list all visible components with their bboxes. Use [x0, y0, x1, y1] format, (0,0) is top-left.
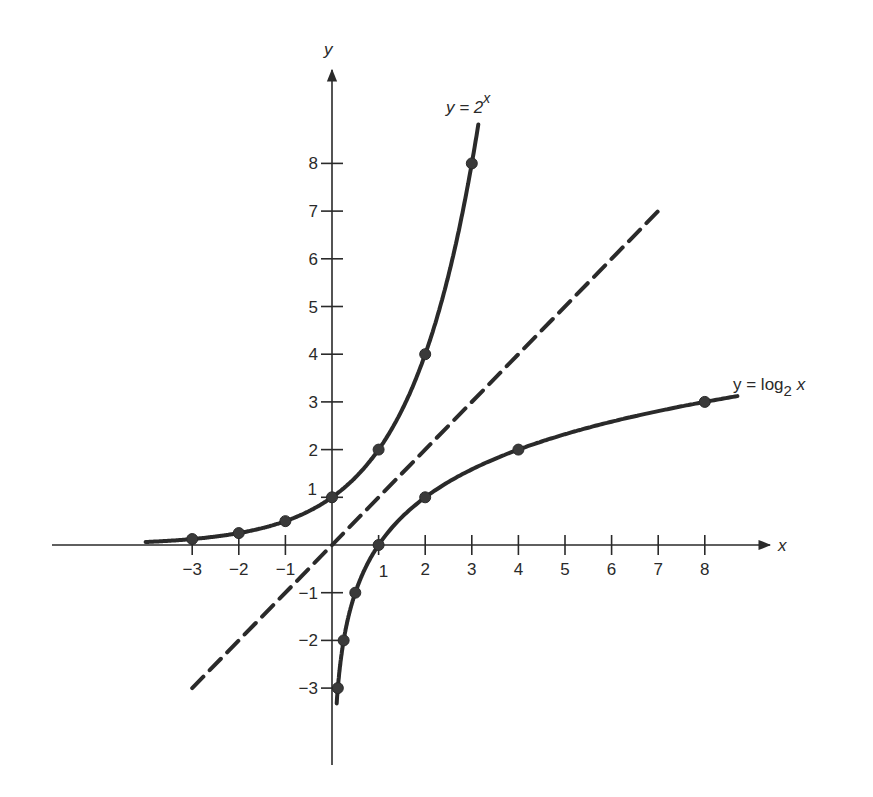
x-tick-label: 1: [379, 562, 388, 581]
exp-data-point: [466, 158, 477, 169]
x-tick-label: 5: [560, 560, 569, 579]
log-data-point: [350, 587, 361, 598]
x-tick-label: 2: [420, 560, 429, 579]
x-axis-label: x: [777, 536, 787, 555]
exp-data-point: [233, 528, 244, 539]
log-curve: [337, 396, 738, 703]
y-axis-label: y: [323, 40, 334, 59]
exp-data-point: [187, 534, 198, 545]
exp-label-main: y = 2: [445, 98, 484, 117]
identity-line-dashed: [192, 206, 663, 688]
y-tick-label: −1: [299, 584, 318, 603]
y-tick-label: −2: [299, 631, 318, 650]
exp-data-point: [420, 349, 431, 360]
x-tick-label: −3: [183, 560, 202, 579]
x-tick-label: 3: [467, 560, 476, 579]
log-data-point: [332, 683, 343, 694]
exp-data-point: [280, 516, 291, 527]
y-tick-label: 3: [309, 393, 318, 412]
plot-curves: [146, 125, 738, 704]
log-data-point: [420, 492, 431, 503]
x-tick-label: −1: [276, 560, 295, 579]
y-tick-label: −3: [299, 679, 318, 698]
log-label-subscript: 2: [784, 382, 792, 399]
axes: x y: [52, 40, 787, 765]
log-curve-label: y = log2 x: [733, 375, 806, 399]
x-tick-label: 4: [514, 560, 523, 579]
exp-data-point: [327, 492, 338, 503]
x-tick-label: 8: [700, 560, 709, 579]
log-label-tail: x: [792, 375, 806, 394]
y-tick-label: 2: [309, 441, 318, 460]
y-tick-label: 1: [308, 480, 317, 499]
log-data-point: [338, 635, 349, 646]
curve-labels: y = 2x y = log2 x: [445, 90, 806, 399]
y-tick-label: 5: [309, 298, 318, 317]
y-tick-label: 7: [309, 202, 318, 221]
log-label-main: y = log: [733, 375, 784, 394]
y-tick-label: 4: [309, 345, 318, 364]
log-data-point: [513, 444, 524, 455]
log-data-point: [699, 396, 710, 407]
exp-label-superscript: x: [482, 90, 491, 106]
x-tick-label: 7: [653, 560, 662, 579]
log-data-point: [373, 540, 384, 551]
x-tick-label: −2: [229, 560, 248, 579]
y-tick-label: 8: [309, 154, 318, 173]
exp-curve-label: y = 2x: [445, 90, 491, 117]
x-tick-label: 6: [607, 560, 616, 579]
y-tick-label: 6: [309, 250, 318, 269]
chart-canvas: x y −3−2−112345678−3−2−112345678 y = 2x …: [0, 0, 873, 797]
exp-data-point: [373, 444, 384, 455]
